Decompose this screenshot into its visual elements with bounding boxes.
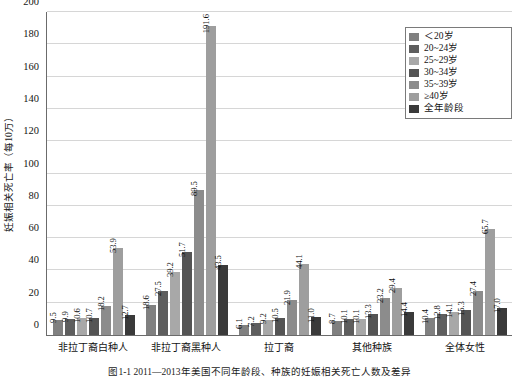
bar: 10.4 [425, 318, 435, 335]
legend-swatch-icon [409, 105, 419, 113]
legend-item[interactable]: 25~29岁 [409, 55, 507, 67]
bar-value-label: 6.1 [235, 318, 244, 329]
y-axis-tick-label: 80 [29, 189, 40, 200]
bar-value-label: 51.7 [178, 242, 187, 257]
legend-item-label: 全年龄段 [424, 104, 464, 114]
x-axis-label: 全体女性 [419, 339, 512, 355]
y-axis-title-label: 妊娠相关死亡率（每10万） [1, 14, 15, 330]
bar-value-label: 12.8 [433, 305, 442, 320]
x-axis-label: 非拉丁裔白种人 [46, 339, 139, 355]
legend-item-label: ＜20岁 [424, 32, 454, 42]
bar-value-label: 10.1 [340, 309, 349, 324]
legend-swatch-icon [409, 57, 419, 65]
pregnancy-mortality-bar-chart: 妊娠相关死亡率（每10万） 02040608010012014016018020… [0, 0, 519, 378]
bar-value-label: 9.9 [61, 312, 70, 323]
bar: 11.0 [311, 317, 321, 335]
bar-value-label: 21.9 [283, 290, 292, 305]
bar-value-label: 7.2 [247, 316, 256, 327]
bar-value-label: 39.2 [166, 262, 175, 277]
y-axis-tick-label: 160 [23, 60, 39, 71]
legend-item[interactable]: 20~24岁 [409, 43, 507, 55]
x-axis-label: 非拉丁裔黑种人 [139, 339, 232, 355]
bar: 44.1 [299, 264, 309, 335]
bar-value-label: 8.7 [328, 314, 337, 325]
bar-group: 6.17.29.210.521.944.111.0 [233, 12, 326, 335]
bar-value-label: 9.5 [49, 312, 58, 323]
y-axis-tick-label: 0 [34, 319, 39, 330]
legend-item-label: 20~24岁 [424, 44, 458, 54]
bar: 43.5 [218, 265, 228, 335]
bar-value-label: 9.2 [259, 313, 268, 324]
bar-value-label: 10.4 [421, 309, 430, 324]
bar-value-label: 14.1 [445, 303, 454, 318]
y-axis-tick-label: 120 [23, 125, 39, 136]
bar: 18.6 [146, 305, 156, 335]
legend-swatch-icon [409, 81, 419, 89]
legend-item[interactable]: ≥40岁 [409, 91, 507, 103]
x-axis-label: 拉丁裔 [232, 339, 325, 355]
x-axis-labels: 非拉丁裔白种人非拉丁裔黑种人拉丁裔其他种族全体女性 [46, 339, 512, 355]
bar: 17.0 [497, 308, 507, 335]
bar-value-label: 14.4 [400, 302, 409, 317]
bar-value-label: 27.5 [154, 281, 163, 296]
y-axis-tick-label: 20 [29, 286, 40, 297]
bar-value-label: 11.0 [307, 308, 316, 323]
legend-item[interactable]: 30~34岁 [409, 67, 507, 79]
bar: 18.2 [101, 306, 111, 335]
bar-value-label: 12.7 [121, 305, 130, 320]
x-axis-label: 其他种族 [326, 339, 419, 355]
bar-value-label: 17.0 [493, 298, 502, 313]
bar: 7.2 [251, 323, 261, 335]
y-axis-tick-label: 100 [23, 157, 39, 168]
y-axis-tick-label: 140 [23, 92, 39, 103]
bar-value-label: 13.3 [364, 304, 373, 319]
legend: ＜20岁20~24岁25~29岁30~34岁35~39岁≥40岁全年龄段 [405, 27, 512, 119]
bar: 51.7 [182, 252, 192, 335]
legend-item[interactable]: 35~39岁 [409, 79, 507, 91]
bar: 10.1 [356, 319, 366, 335]
bar-value-label: 23.2 [376, 288, 385, 303]
bar-value-label: 15.3 [457, 301, 466, 316]
legend-item-label: ≥40岁 [424, 92, 449, 102]
bar-value-label: 10.5 [271, 309, 280, 324]
bar: 53.9 [113, 248, 123, 335]
bar-value-label: 18.6 [142, 295, 151, 310]
bar-value-label: 65.7 [481, 219, 490, 234]
y-axis-tick-label: 200 [23, 0, 39, 7]
legend-item-label: 25~29岁 [424, 56, 458, 66]
bar: 21.9 [287, 300, 297, 335]
bar-value-label: 191.6 [202, 14, 211, 33]
bar-value-label: 10.7 [85, 308, 94, 323]
bar-group: 18.627.539.251.789.5191.643.5 [140, 12, 233, 335]
bar-value-label: 18.2 [97, 296, 106, 311]
bar: 12.7 [125, 315, 135, 336]
legend-swatch-icon [409, 45, 419, 53]
bar-value-label: 53.9 [109, 238, 118, 253]
bar: 15.3 [461, 310, 471, 335]
y-axis-tick-label: 60 [29, 222, 40, 233]
y-axis-tick-label: 40 [29, 254, 40, 265]
legend-swatch-icon [409, 69, 419, 77]
bar-value-label: 89.5 [190, 181, 199, 196]
bar: 9.5 [53, 320, 63, 335]
bar: 23.2 [380, 298, 390, 335]
bar-value-label: 10.1 [352, 309, 361, 324]
legend-item-label: 30~34岁 [424, 68, 458, 78]
bar: 191.6 [206, 26, 216, 335]
bar: 89.5 [194, 190, 204, 335]
bar-value-label: 27.4 [469, 281, 478, 296]
bar-value-label: 29.4 [388, 278, 397, 293]
bar: 10.7 [89, 318, 99, 335]
bar: 13.3 [368, 314, 378, 335]
bar-value-label: 44.1 [295, 254, 304, 269]
legend-swatch-icon [409, 93, 419, 101]
bar: 10.5 [275, 318, 285, 335]
legend-item[interactable]: 全年龄段 [409, 103, 507, 115]
y-axis-title: 妊娠相关死亡率（每10万） [0, 8, 16, 338]
figure-caption: 图1-1 2011—2013年美国不同年龄段、种族的妊娠相关死亡人数及差异 [0, 364, 519, 378]
y-axis-tick-label: 180 [23, 28, 39, 39]
bar: 27.4 [473, 291, 483, 335]
bar: 14.4 [404, 312, 414, 335]
bar-group: 9.59.910.610.718.253.912.7 [47, 12, 140, 335]
legend-item[interactable]: ＜20岁 [409, 31, 507, 43]
